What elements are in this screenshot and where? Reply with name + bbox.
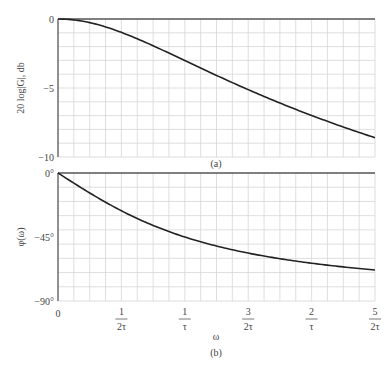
- caption-b: (b): [210, 347, 222, 359]
- y-tick-label: 0: [49, 14, 54, 25]
- phase-plot: 0°−45°−90°012τ1τ32τ2τ52τ: [34, 168, 381, 332]
- caption-a: (a): [210, 158, 221, 170]
- x-tick-denominator: 2τ: [244, 321, 253, 332]
- x-tick-denominator: τ: [310, 321, 314, 332]
- x-tick-numerator: 1: [182, 306, 187, 317]
- x-tick-label: 0: [56, 308, 61, 319]
- x-axis-label: ω: [213, 331, 220, 342]
- x-tick-denominator: 2τ: [370, 321, 379, 332]
- phase-axis-label: φ(ω): [15, 227, 27, 246]
- x-tick-numerator: 2: [309, 306, 314, 317]
- y-tick-label: −45°: [34, 232, 54, 243]
- y-tick-label: −5: [43, 83, 54, 94]
- magnitude-axis-label: 20 log|G|, db: [15, 62, 26, 114]
- magnitude-plot: 0−5−10: [38, 14, 375, 163]
- x-tick-denominator: τ: [183, 321, 187, 332]
- y-tick-label: 0°: [45, 168, 54, 179]
- x-tick-numerator: 5: [373, 306, 378, 317]
- x-tick-numerator: 3: [246, 306, 251, 317]
- y-tick-label: −90°: [34, 296, 54, 307]
- y-tick-label: −10: [38, 152, 54, 163]
- x-tick-numerator: 1: [119, 306, 124, 317]
- x-tick-denominator: 2τ: [117, 321, 126, 332]
- bode-plot-figure: 0−5−10 0°−45°−90°012τ1τ32τ2τ52τ 20 log|G…: [0, 0, 391, 371]
